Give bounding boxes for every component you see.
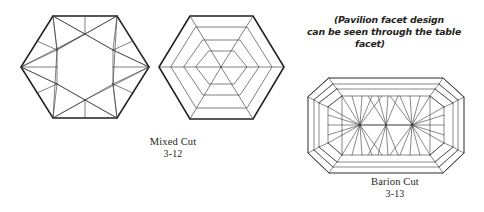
barion-right-fan-facets [390,96,444,155]
barion-left-fan-facets [328,96,382,155]
annotation-line-3: facet) [258,38,482,50]
crown-girdle-facets [21,16,149,118]
barion-cut-caption-number: 3-13 [340,188,450,200]
mixed-cut-crown-diagram [21,16,149,118]
mixed-cut-pavilion-diagram [159,16,284,119]
barion-cut-caption: Barion Cut 3-13 [340,176,450,200]
annotation-line-1: (Pavilion facet design [296,14,482,26]
mixed-cut-caption-title: Mixed Cut [118,136,228,148]
annotation-line-2: can be seen through the table [286,26,482,38]
barion-centre-fan-facets [360,96,412,155]
barion-cut-diagram [308,78,464,173]
mixed-cut-caption: Mixed Cut 3-12 [118,136,228,160]
barion-cut-caption-title: Barion Cut [340,176,450,188]
pavilion-radial-facets [159,16,284,119]
mixed-cut-caption-number: 3-12 [118,148,228,160]
pavilion-annotation-note: (Pavilion facet design can be seen throu… [286,14,482,50]
